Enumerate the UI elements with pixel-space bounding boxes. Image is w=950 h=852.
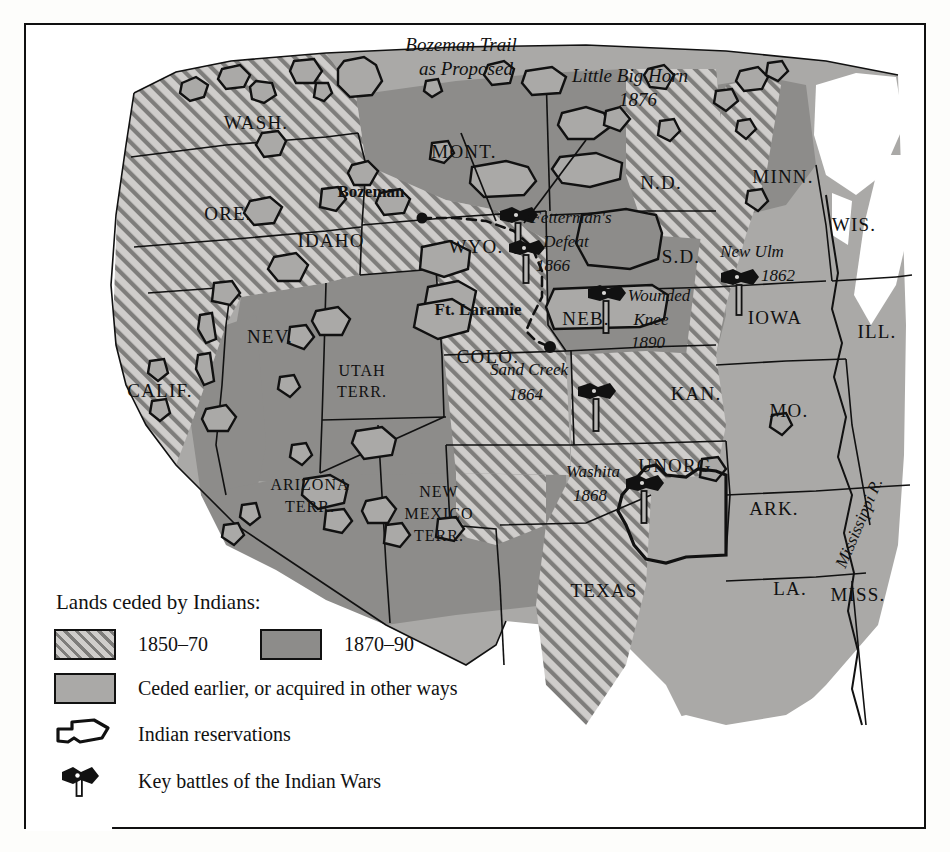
legend-row-periods: 1850–70 1870–90 — [54, 629, 534, 660]
state-label-calif: CALIF. — [127, 380, 192, 401]
state-label-iowa: IOWA — [748, 307, 802, 328]
state-label-ariz-1: ARIZONA — [271, 476, 350, 493]
city-dot-ft-laramie — [544, 341, 556, 353]
battle-label-sand-creek: Sand Creek — [490, 360, 569, 379]
legend-row-earlier: Ceded earlier, or acquired in other ways — [54, 673, 534, 704]
state-label-idaho: IDAHO — [297, 230, 364, 251]
state-label-sd: S.D. — [662, 246, 701, 267]
map-legend: Lands ceded by Indians: 1850–70 1870–90 … — [54, 590, 534, 811]
annotation-bozeman-trail-line2: as Proposed — [419, 58, 513, 79]
legend-label-1870-90: 1870–90 — [344, 633, 414, 656]
state-label-neb: NEB. — [562, 308, 610, 329]
map-page: WASH. ORE. IDAHO MONT. N.D. MINN. WIS. S… — [0, 0, 950, 852]
state-label-ariz-2: TERR. — [285, 498, 335, 515]
legend-label-battles: Key battles of the Indian Wars — [138, 770, 381, 793]
battle-label-fettermans-1: Fetterman's — [529, 208, 611, 227]
battle-axe-icon — [54, 764, 116, 798]
state-label-wash: WASH. — [224, 112, 289, 133]
legend-swatch-earlier — [54, 673, 116, 704]
city-label-bozeman: Bozeman — [337, 182, 405, 201]
legend-title: Lands ceded by Indians: — [56, 590, 534, 615]
legend-row-battles: Key battles of the Indian Wars — [54, 764, 534, 798]
battle-label-wounded-2: Knee — [633, 310, 669, 329]
state-label-kan: KAN. — [671, 383, 722, 404]
annotation-little-big-horn-line2: 1876 — [619, 89, 658, 110]
battle-label-fettermans-year: 1866 — [536, 256, 571, 275]
state-label-utah-2: TERR. — [337, 383, 387, 400]
city-dot-bozeman — [417, 213, 428, 224]
legend-label-1850-70: 1850–70 — [138, 633, 208, 656]
state-label-nm-2: MEXICO — [404, 505, 473, 522]
legend-label-earlier: Ceded earlier, or acquired in other ways — [138, 677, 458, 700]
battle-label-sand-creek-year: 1864 — [509, 385, 544, 404]
city-label-ft-laramie: Ft. Laramie — [435, 300, 522, 319]
state-label-nd: N.D. — [640, 172, 682, 193]
legend-swatch-1870-90 — [260, 629, 322, 660]
state-label-wyo: WYO. — [449, 236, 504, 257]
state-label-la: LA. — [773, 578, 807, 599]
legend-swatch-1850-70 — [54, 629, 116, 660]
state-label-ill: ILL. — [857, 321, 896, 342]
battle-label-wounded-year: 1890 — [631, 333, 666, 352]
state-label-utah-1: UTAH — [338, 362, 385, 379]
battle-label-new-ulm-year: 1862 — [761, 266, 796, 285]
state-label-unorg: UNORG. — [638, 455, 718, 476]
state-label-minn: MINN. — [752, 166, 813, 187]
state-label-mont: MONT. — [431, 141, 496, 162]
annotation-little-big-horn-line1: Little Big Horn — [571, 65, 688, 86]
reservation-outline-icon — [54, 717, 116, 751]
legend-label-reservations: Indian reservations — [138, 723, 291, 746]
state-label-nev: NEV. — [247, 326, 293, 347]
battle-label-washita: Washita — [566, 462, 620, 481]
annotation-bozeman-trail-line1: Bozeman Trail — [405, 34, 516, 55]
state-label-miss: MISS. — [830, 584, 885, 605]
battle-label-wounded-1: Wounded — [628, 286, 691, 305]
state-label-ark: ARK. — [749, 498, 799, 519]
state-label-ore: ORE. — [204, 203, 252, 224]
map-frame: WASH. ORE. IDAHO MONT. N.D. MINN. WIS. S… — [24, 23, 926, 829]
state-label-texas: TEXAS — [570, 580, 637, 601]
legend-row-reservations: Indian reservations — [54, 717, 534, 751]
state-label-wis: WIS. — [832, 214, 876, 235]
battle-label-washita-year: 1868 — [573, 486, 608, 505]
battle-label-new-ulm: New Ulm — [719, 242, 784, 261]
battle-label-fettermans-2: Defeat — [542, 232, 590, 251]
state-label-nm-3: TERR. — [414, 527, 464, 544]
state-label-nm-1: NEW — [419, 483, 458, 500]
state-label-mo: MO. — [770, 400, 809, 421]
